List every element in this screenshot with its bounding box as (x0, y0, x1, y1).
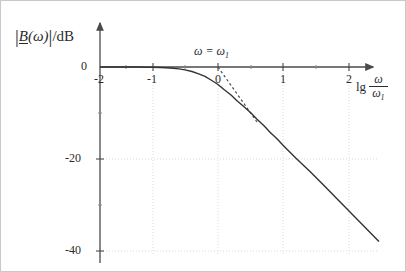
cutoff-annotation: ω = ω1 (194, 45, 229, 57)
cutoff-annotation-omega1: ω (217, 44, 225, 58)
y-tick-label-neg40: -40 (65, 244, 81, 256)
horizontal-gridlines (100, 159, 379, 251)
vertical-gridlines (153, 67, 349, 256)
x-axis-title-denominator: ω1 (369, 86, 387, 100)
y-axis-title: |B(ω)|/dB (15, 27, 74, 46)
y-tick-label-0: 0 (81, 60, 87, 72)
x-tick-label-1: 1 (280, 73, 286, 85)
magnitude-curve (100, 67, 379, 242)
y-axis-title-omega: (ω) (28, 28, 49, 44)
x-tick-label-neg1: -1 (147, 73, 157, 85)
cutoff-annotation-subscript: 1 (225, 51, 229, 60)
y-axis-title-unit: /dB (52, 28, 74, 44)
x-tick-label-neg2: -2 (94, 73, 104, 85)
x-axis-title-numerator: ω (369, 73, 387, 86)
x-axis-title-fraction: ωω1 (369, 73, 387, 99)
cutoff-annotation-equals: = (205, 44, 213, 58)
figure-container: |B(ω)|/dB lgωω1 ω = ω1 -2 -1 0 1 2 0 -20… (0, 0, 406, 272)
x-axis-title: lgωω1 (356, 73, 388, 99)
x-axis-title-lg: lg (356, 80, 366, 93)
cutoff-annotation-omega: ω (194, 44, 202, 58)
y-tick-label-neg20: -20 (65, 152, 81, 164)
x-tick-label-0: 0 (215, 73, 221, 85)
y-axis-title-b: B (19, 29, 28, 44)
x-tick-label-2: 2 (346, 73, 352, 85)
